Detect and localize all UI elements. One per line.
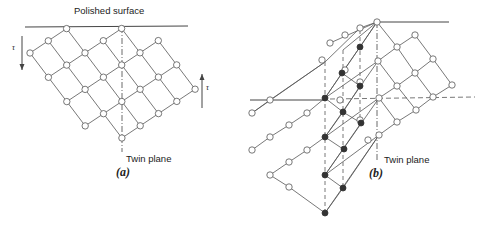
lattice-bond	[289, 187, 325, 213]
atom-site	[342, 32, 348, 38]
atom-site	[45, 74, 51, 80]
lattice-bond	[48, 41, 66, 65]
shear-arrow-up-head	[200, 74, 205, 80]
atom-site	[304, 147, 310, 153]
lattice-bond	[67, 65, 85, 89]
displaced-atom	[358, 120, 364, 126]
displaced-atom	[341, 146, 347, 152]
atom-site	[267, 172, 273, 178]
shear-stress-label-right: τ	[206, 83, 209, 92]
lattice-drawing	[0, 0, 479, 226]
polished-surface-line	[25, 26, 188, 27]
lattice-bond	[103, 41, 121, 65]
displaced-atom	[322, 172, 328, 178]
lattice-bond	[122, 102, 140, 126]
lattice-bond	[378, 61, 397, 86]
atom-site	[327, 40, 333, 46]
atom-site	[376, 132, 382, 138]
atom-site	[45, 38, 51, 44]
lattice-bond	[325, 61, 378, 98]
atom-site	[192, 86, 198, 92]
atom-site	[174, 62, 180, 68]
atom-site	[82, 86, 88, 92]
atom-site	[174, 98, 180, 104]
atom-site	[286, 159, 292, 165]
atom-site	[82, 123, 88, 129]
lattice-bond	[48, 77, 66, 101]
displaced-atom	[340, 185, 346, 191]
displaced-atom	[322, 134, 328, 140]
lattice-bond	[379, 98, 397, 122]
lattice-bond	[397, 47, 415, 73]
atom-site	[286, 122, 292, 128]
atom-site	[249, 110, 255, 116]
atom-site	[63, 62, 69, 68]
lattice-bond	[67, 29, 85, 53]
atom-site	[412, 32, 418, 38]
atom-site	[267, 134, 273, 140]
lattice-bond	[433, 59, 452, 85]
atom-site	[357, 25, 363, 31]
atom-site	[394, 119, 400, 125]
atom-site	[137, 86, 143, 92]
atom-site	[413, 107, 419, 113]
atom-site	[394, 83, 400, 89]
atom-site	[155, 37, 161, 43]
twin-plane-label-a: Twin plane	[126, 153, 171, 164]
panel-label-b: (b)	[369, 166, 383, 181]
displaced-atom	[357, 83, 363, 89]
atom-site	[449, 82, 455, 88]
shear-stress-label-left: τ	[12, 43, 15, 52]
atom-site	[100, 74, 106, 80]
lattice-bond	[177, 65, 195, 89]
atom-site	[267, 97, 273, 103]
displaced-atom	[340, 109, 346, 115]
atom-site	[319, 57, 325, 63]
atom-site	[64, 98, 70, 104]
lattice-bond	[158, 41, 176, 65]
displaced-atom	[339, 70, 345, 76]
displaced-atom	[322, 95, 328, 101]
panel-label-a: (a)	[116, 165, 130, 180]
lattice-bond	[30, 53, 48, 77]
atom-site	[137, 123, 143, 129]
lattice-bond	[85, 53, 103, 77]
atom-site	[155, 74, 161, 80]
displaced-atom	[357, 44, 363, 50]
atom-site	[286, 184, 292, 190]
twin-plane-label-b: Twin plane	[384, 154, 429, 165]
twinning-diagram: Polished surface τ τ Twin plane (a) Twin…	[0, 0, 479, 226]
atom-site	[118, 25, 124, 31]
atom-site	[249, 147, 255, 153]
atom-site	[27, 50, 33, 56]
polished-surface-label: Polished surface	[74, 5, 144, 16]
atom-site	[119, 98, 125, 104]
atom-site	[376, 95, 382, 101]
lattice-bond	[415, 35, 433, 59]
lattice-bond	[140, 53, 158, 77]
atom-site	[82, 50, 88, 56]
atom-site	[374, 19, 380, 25]
lattice-bond	[67, 102, 85, 126]
atom-site	[337, 97, 343, 103]
atom-site	[430, 56, 436, 62]
atom-site	[412, 70, 418, 76]
lattice-bond	[140, 89, 158, 113]
lattice-bond	[85, 89, 103, 113]
lattice-bond	[377, 22, 397, 47]
atom-site	[137, 50, 143, 56]
lattice-bond	[325, 98, 379, 175]
displaced-atom	[322, 210, 328, 216]
lattice-bond	[122, 65, 140, 89]
lattice-bond	[415, 73, 433, 97]
shear-arrow-down-head	[20, 64, 25, 70]
atom-site	[430, 94, 436, 100]
atom-site	[100, 111, 106, 117]
lattice-bond	[158, 77, 176, 101]
atom-site	[155, 110, 161, 116]
atom-site	[119, 62, 125, 68]
atom-site	[394, 44, 400, 50]
atom-site	[63, 25, 69, 31]
lattice-bond	[104, 114, 122, 138]
atom-site	[304, 110, 310, 116]
